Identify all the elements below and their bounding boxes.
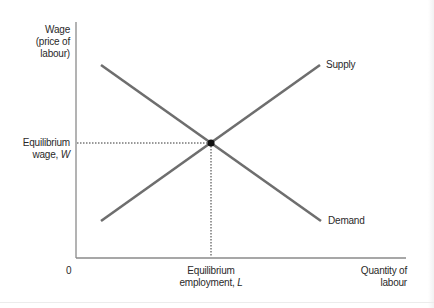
x-axis-label: Quantity of labour: [327, 265, 407, 289]
equilibrium-point: [207, 139, 214, 146]
employment-symbol: L: [237, 277, 242, 288]
demand-label: Demand: [328, 215, 365, 227]
equilibrium-employment-label: Equilibrium employment, L: [161, 265, 261, 289]
bottom-divider: [0, 302, 434, 303]
page-edge-shade: [428, 0, 434, 308]
equilibrium-wage-label: Equilibrium wage, W: [0, 137, 70, 161]
origin-label: 0: [66, 265, 71, 277]
y-axis-label: Wage (price of labour): [0, 24, 70, 60]
supply-label: Supply: [326, 59, 355, 71]
wage-symbol: W: [61, 149, 70, 160]
